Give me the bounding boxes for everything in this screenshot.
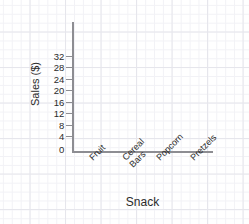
y-tick-label-20: 20 <box>44 86 64 95</box>
y-axis-line <box>72 22 74 153</box>
y-tick-label-4: 4 <box>44 132 64 141</box>
y-tick-32: 32 <box>44 52 64 61</box>
y-tick-mark-4 <box>66 136 73 137</box>
y-tick-28: 28 <box>44 63 64 72</box>
y-tick-mark-16 <box>66 102 73 103</box>
y-tick-4: 4 <box>44 132 64 141</box>
y-tick-label-16: 16 <box>44 98 64 107</box>
y-tick-16: 16 <box>44 98 64 107</box>
y-tick-mark-8 <box>66 125 73 126</box>
y-tick-12: 12 <box>44 109 64 118</box>
y-tick-24: 24 <box>44 75 64 84</box>
y-tick-20: 20 <box>44 86 64 95</box>
bar-chart: 32 28 24 20 16 12 8 4 0 <box>0 0 249 224</box>
x-axis-title: Snack <box>72 195 213 209</box>
y-tick-label-12: 12 <box>44 109 64 118</box>
y-tick-8: 8 <box>44 121 64 130</box>
y-tick-label-32: 32 <box>44 52 64 61</box>
y-tick-0: 0 <box>44 145 64 154</box>
y-tick-label-24: 24 <box>44 75 64 84</box>
y-tick-mark-24 <box>66 79 73 80</box>
y-tick-mark-12 <box>66 113 73 114</box>
y-tick-label-28: 28 <box>44 63 64 72</box>
y-tick-mark-20 <box>66 90 73 91</box>
plot-area <box>74 22 213 151</box>
y-axis-title: Sales ($) <box>29 44 41 124</box>
y-tick-mark-28 <box>66 67 73 68</box>
y-tick-label-0: 0 <box>44 145 64 154</box>
y-tick-label-8: 8 <box>44 121 64 130</box>
chart-screenshot: 32 28 24 20 16 12 8 4 0 <box>0 0 249 224</box>
y-tick-mark-32 <box>66 56 73 57</box>
